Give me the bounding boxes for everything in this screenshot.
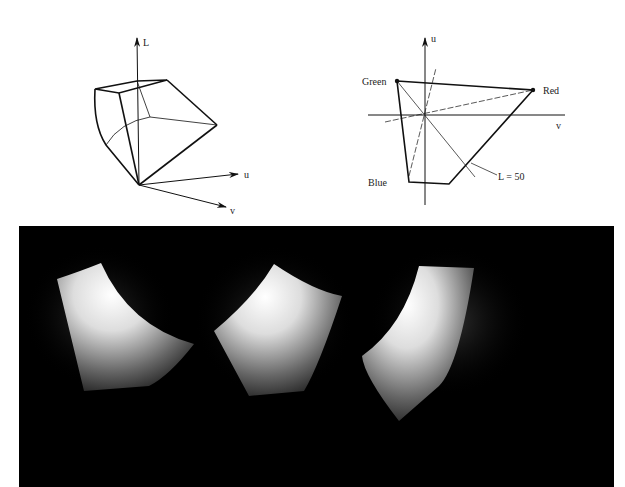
uv-cross-section-diagram (368, 38, 565, 205)
l-axis (137, 38, 139, 185)
gamut-solid-diagram (95, 38, 238, 207)
u-axis (139, 174, 238, 185)
l50-annotation: L = 50 (498, 171, 524, 182)
gamut-polygon (397, 81, 533, 184)
diagrams: L u v u v Green Red Blue L = 50 (0, 0, 625, 226)
u-axis-label: u (431, 33, 436, 44)
v-axis-label: v (556, 120, 561, 131)
red-vertex-label: Red (543, 85, 559, 96)
v-axis-label: v (230, 205, 235, 216)
rendered-gamut-photo (19, 226, 614, 487)
green-vertex-label: Green (362, 76, 386, 87)
blue-vertex-label: Blue (368, 177, 387, 188)
v-axis (139, 185, 226, 207)
u-axis-label: u (244, 169, 249, 180)
l-axis-label: L (143, 37, 149, 48)
